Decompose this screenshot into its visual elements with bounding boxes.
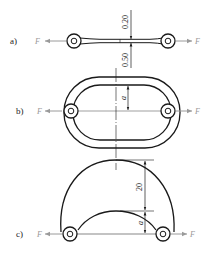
panel-a-label: a) xyxy=(10,36,17,46)
diagram-canvas: a) F F 0.20 0.50 b) F xyxy=(0,0,214,262)
panel-c: c) F F 20 a xyxy=(16,160,195,241)
force-left-label: F xyxy=(34,37,40,46)
panel-b-label: b) xyxy=(16,106,24,116)
dim-0.20: 0.20 xyxy=(121,15,130,29)
eye-left xyxy=(67,34,81,48)
arch-inner xyxy=(78,211,156,230)
ring-inner xyxy=(73,85,171,140)
panel-b: b) F F a xyxy=(16,68,200,170)
eye-left xyxy=(64,104,78,118)
dim-20: 20 xyxy=(135,183,144,191)
panel-c-label: c) xyxy=(16,229,23,239)
eye-left xyxy=(63,227,77,241)
dim-a: a xyxy=(136,221,145,225)
panel-a: a) F F 0.20 0.50 xyxy=(10,10,200,68)
force-right-label: F xyxy=(189,230,195,239)
eye-right xyxy=(161,104,175,118)
force-left-label: F xyxy=(36,107,42,116)
arch-outer xyxy=(61,160,174,232)
force-right-label: F xyxy=(194,107,200,116)
dim-0.50: 0.50 xyxy=(121,53,130,67)
force-left-label: F xyxy=(36,230,42,239)
link-bar xyxy=(80,38,163,44)
eye-right xyxy=(156,227,170,241)
force-right-label: F xyxy=(194,37,200,46)
dim-a: a xyxy=(119,96,128,100)
eye-right xyxy=(161,34,175,48)
